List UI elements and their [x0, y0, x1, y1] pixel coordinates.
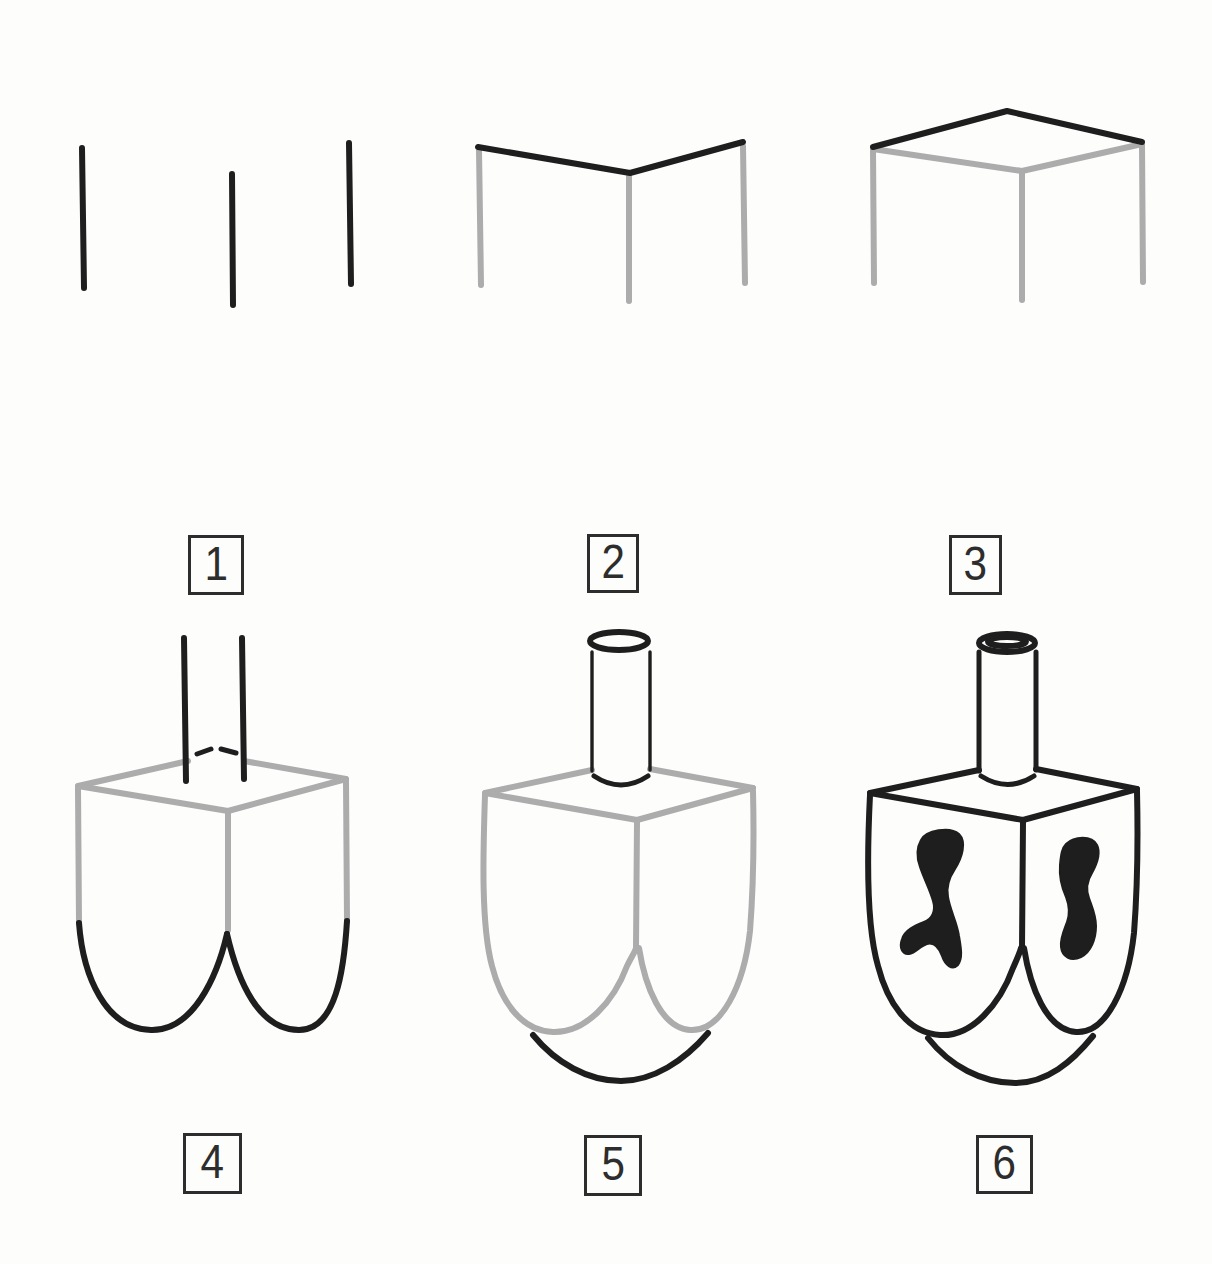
step-number-box-4: 4	[183, 1133, 242, 1194]
back-left-edge-guide	[78, 761, 188, 786]
back-right-edge-guide	[650, 769, 753, 788]
step-number-box-1: 1	[188, 535, 244, 595]
back-left-edge	[870, 770, 979, 793]
letter-gimel	[901, 830, 963, 968]
step-number-label: 5	[601, 1140, 624, 1191]
left-handle-stem	[184, 638, 186, 781]
rear-lobe-bottom-arc	[928, 1036, 1093, 1083]
book-page: 1 2 3 4 5 6	[0, 0, 1212, 1264]
hidden-edge-dash-right	[221, 749, 236, 753]
step-number-box-2: 2	[587, 534, 639, 593]
front-top-edges	[478, 142, 743, 173]
step6-figure	[868, 634, 1137, 1083]
step2-figure	[478, 142, 745, 301]
handle-base-arc	[594, 776, 648, 785]
back-left-edge-guide	[485, 770, 592, 793]
drawing-steps-illustration	[0, 0, 1212, 1264]
right-lobe-bottom-curve	[227, 921, 347, 1030]
middle-seam	[1022, 822, 1023, 948]
step3-figure	[873, 111, 1143, 300]
left-vertical-guide	[479, 150, 481, 285]
letter-nun	[1060, 838, 1099, 959]
left-lobe-guide	[483, 795, 636, 1032]
handle-top-ellipse	[590, 632, 648, 650]
step-number-label: 1	[204, 540, 227, 591]
hidden-edge-dash-left	[197, 749, 211, 754]
front-top-edges	[870, 789, 1137, 820]
front-top-edges-guide	[873, 144, 1142, 171]
handle-rim-inner-ellipse	[988, 637, 1026, 646]
left-side-guide	[78, 788, 79, 923]
front-top-edges-guide	[485, 788, 753, 820]
right-vertical-line	[349, 143, 351, 284]
back-right-edge	[1036, 769, 1137, 789]
rear-lobe-bottom-arc	[533, 1033, 708, 1081]
left-lobe-bottom-curve	[79, 923, 227, 1030]
left-vertical-guide	[873, 150, 874, 283]
right-side-guide	[346, 781, 347, 921]
step-number-label: 6	[993, 1139, 1016, 1190]
left-vertical-line	[82, 148, 84, 288]
right-vertical-guide	[1142, 145, 1143, 282]
step1-figure	[82, 143, 351, 305]
back-top-edges	[873, 111, 1142, 147]
step-number-label: 4	[201, 1138, 224, 1189]
handle-base-arc	[981, 776, 1034, 785]
middle-seam-guide	[636, 822, 637, 948]
step-number-box-5: 5	[584, 1135, 642, 1196]
middle-vertical-line	[232, 174, 233, 305]
step-number-box-3: 3	[949, 535, 1002, 595]
right-vertical-guide	[743, 146, 745, 283]
step-number-label: 3	[964, 540, 987, 591]
step4-figure	[78, 638, 347, 1030]
right-lobe-guide	[639, 791, 753, 1030]
step5-figure	[483, 632, 753, 1081]
back-right-edge-guide	[244, 761, 346, 779]
step-number-label: 2	[601, 538, 624, 589]
right-handle-stem	[242, 638, 244, 779]
step-number-box-6: 6	[976, 1135, 1033, 1194]
front-top-edges-guide	[78, 779, 346, 811]
